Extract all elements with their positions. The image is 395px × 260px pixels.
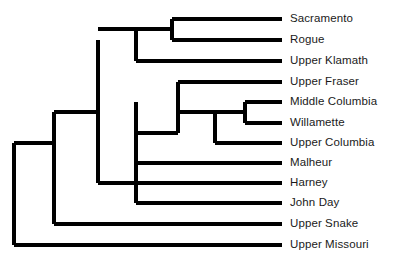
tip-label: Upper Klamath xyxy=(290,55,368,67)
tip-label: Malheur xyxy=(290,157,332,169)
tip-label: John Day xyxy=(290,197,339,209)
tip-label: Upper Fraser xyxy=(290,76,359,88)
tree-branch-lines xyxy=(14,19,282,245)
tip-label: Rogue xyxy=(290,34,324,46)
tip-label: Upper Missouri xyxy=(290,239,369,251)
tip-label: Willamette xyxy=(290,117,345,129)
phylogenetic-tree-figure: SacramentoRogueUpper KlamathUpper Fraser… xyxy=(0,0,395,260)
tip-label: Upper Columbia xyxy=(290,137,375,149)
tip-label: Middle Columbia xyxy=(290,96,377,108)
tip-label: Sacramento xyxy=(290,13,353,25)
tip-label: Harney xyxy=(290,177,328,189)
tip-label: Upper Snake xyxy=(290,218,358,230)
